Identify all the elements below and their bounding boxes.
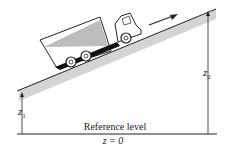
truck-incline-diagram: z1 z2 Reference level z = 0	[0, 0, 230, 147]
motion-arrow-icon	[149, 14, 178, 25]
z-zero-label: z = 0	[102, 135, 124, 146]
reference-level-label: Reference level	[84, 121, 147, 132]
z2-label: z2	[202, 66, 211, 81]
z1-label: z1	[17, 105, 26, 120]
